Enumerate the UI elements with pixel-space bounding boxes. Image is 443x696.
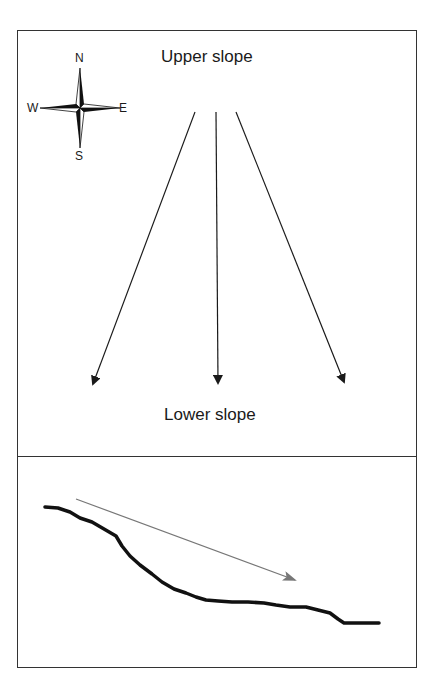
compass-north-label: N [75, 52, 84, 64]
compass-south-label: S [75, 150, 83, 162]
downslope-direction-arrow [76, 499, 295, 580]
diagram-graphics [0, 0, 443, 696]
flow-arrow-right [236, 112, 344, 382]
flow-arrow-center [216, 112, 218, 383]
compass-east-label: E [119, 102, 127, 114]
slope-profile-line [45, 507, 379, 623]
compass-rose-icon [40, 68, 120, 148]
flow-arrow-left [93, 112, 195, 384]
lower-slope-label: Lower slope [164, 405, 256, 425]
compass-west-label: W [27, 102, 38, 114]
upper-slope-label: Upper slope [161, 47, 253, 67]
